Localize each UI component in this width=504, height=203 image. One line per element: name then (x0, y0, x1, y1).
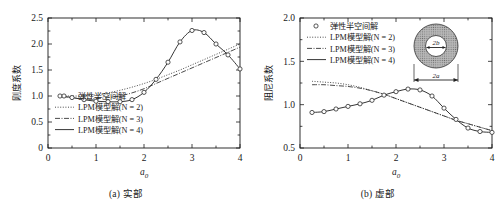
plot-frame (48, 18, 240, 148)
y-tick-label: 2.5 (31, 13, 43, 23)
x-tick-label: 1 (346, 153, 351, 163)
data-point-marker (454, 117, 458, 121)
x-tick-label: 0 (46, 153, 51, 163)
chart-imaginary-part: 0.51.01.52.001234阻尼系数a0弹性半空间解LPM模型解(N = … (252, 0, 504, 180)
x-tick-label: 2 (394, 153, 399, 163)
data-point-marker (394, 90, 398, 94)
data-point-marker (322, 110, 326, 114)
legend: 弹性半空间解LPM模型解(N = 2)LPM模型解(N = 3)LPM模型解(N… (307, 21, 395, 65)
series-line-dotted (60, 44, 240, 96)
x-tick-label: 0 (298, 153, 303, 163)
data-point-marker (346, 104, 350, 108)
panel-imaginary-part: 0.51.01.52.001234阻尼系数a0弹性半空间解LPM模型解(N = … (252, 0, 504, 203)
series-markers (310, 87, 494, 135)
caption-panel-a: (a) 实部 (0, 186, 252, 200)
arrow-head-left-inner (427, 46, 430, 49)
x-tick-label: 2 (142, 153, 147, 163)
data-point-marker (466, 126, 470, 130)
data-point-marker (382, 93, 386, 97)
data-point-marker (166, 60, 170, 64)
y-tick-label: 2.0 (283, 13, 295, 23)
series-line-solid (312, 89, 492, 132)
data-point-marker (358, 102, 362, 106)
panel-real-part: 00.51.01.52.02.501234刚度系数a0弹性半空间解LPM模型解(… (0, 0, 252, 203)
series-line-dashdot (60, 47, 240, 99)
y-tick-label: 1.5 (283, 57, 295, 67)
data-point-marker (214, 42, 218, 46)
legend-item: LPM模型解(N = 4) (55, 125, 143, 135)
series-line-solid (60, 30, 240, 102)
series-line-dotted (312, 81, 492, 130)
y-tick-label: 0.5 (31, 117, 43, 127)
legend-item: 弹性半空间解 (314, 21, 378, 31)
legend-item: LPM模型解(N = 3) (307, 44, 395, 54)
data-point-marker (70, 95, 74, 99)
y-axis-title: 阻尼系数 (263, 65, 274, 101)
legend-marker-circle (314, 24, 318, 28)
data-point-marker (490, 130, 494, 134)
y-tick-label: 0 (38, 143, 43, 153)
data-point-marker (310, 110, 314, 114)
y-tick-label: 1.5 (31, 65, 43, 75)
plot-area: 00.51.01.52.02.501234刚度系数a0弹性半空间解LPM模型解(… (11, 13, 243, 179)
legend-item: LPM模型解(N = 3) (55, 114, 143, 124)
data-point-marker (178, 40, 182, 44)
x-axis-title: a0 (140, 167, 149, 180)
series-line-dashdot (312, 85, 492, 131)
data-point-marker (238, 67, 242, 71)
y-axis-title: 刚度系数 (11, 65, 22, 101)
legend-item: LPM模型解(N = 2) (307, 32, 395, 42)
legend-label: 弹性半空间解 (330, 21, 378, 31)
x-tick-label: 1 (94, 153, 99, 163)
data-point-marker (430, 94, 434, 98)
legend-label: LPM模型解(N = 3) (78, 114, 143, 124)
data-point-marker (478, 129, 482, 133)
legend-label: LPM模型解(N = 2) (330, 32, 395, 42)
plot-frame (300, 18, 492, 148)
data-point-marker (370, 98, 374, 102)
legend-item: LPM模型解(N = 2) (55, 102, 143, 112)
legend-label: LPM模型解(N = 3) (330, 44, 395, 54)
y-tick-label: 1.0 (31, 91, 43, 101)
plot-area: 0.51.01.52.001234阻尼系数a0弹性半空间解LPM模型解(N = … (263, 13, 495, 179)
x-tick-label: 3 (190, 153, 195, 163)
axis-ticks (48, 18, 240, 148)
data-point-marker (190, 28, 194, 32)
y-tick-label: 0.5 (283, 143, 295, 153)
inner-diameter-label: 2b (433, 39, 441, 47)
outer-diameter-label: 2a (433, 72, 441, 80)
data-point-marker (58, 94, 62, 98)
data-point-marker (406, 87, 410, 91)
arrow-head-right-inner (443, 46, 446, 49)
chart-real-part: 00.51.01.52.02.501234刚度系数a0弹性半空间解LPM模型解(… (0, 0, 252, 180)
legend-label: 弹性半空间解 (78, 91, 126, 101)
caption-panel-b: (b) 虚部 (252, 186, 504, 200)
y-tick-label: 1.0 (283, 100, 295, 110)
data-point-marker (418, 88, 422, 92)
data-point-marker (130, 98, 134, 102)
x-axis-title: a0 (392, 167, 401, 180)
legend-label: LPM模型解(N = 4) (78, 125, 143, 135)
legend-label: LPM模型解(N = 2) (78, 102, 143, 112)
arrow-head-right-outer (454, 78, 459, 82)
data-point-marker (154, 77, 158, 81)
data-point-marker (142, 90, 146, 94)
arrow-head-left-outer (414, 78, 419, 82)
legend-item: LPM模型解(N = 4) (307, 55, 395, 65)
legend: 弹性半空间解LPM模型解(N = 2)LPM模型解(N = 3)LPM模型解(N… (55, 91, 143, 135)
x-tick-label: 4 (490, 153, 495, 163)
data-point-marker (334, 107, 338, 111)
axis-ticks (300, 18, 492, 148)
data-point-marker (226, 53, 230, 57)
figure-container: 00.51.01.52.02.501234刚度系数a0弹性半空间解LPM模型解(… (0, 0, 504, 203)
x-tick-label: 3 (442, 153, 447, 163)
annulus-diagram: 2b2a (414, 24, 458, 82)
data-point-marker (202, 30, 206, 34)
data-point-marker (442, 106, 446, 110)
legend-marker-circle (62, 94, 66, 98)
x-tick-label: 4 (238, 153, 243, 163)
y-tick-label: 2.0 (31, 39, 43, 49)
legend-label: LPM模型解(N = 4) (330, 55, 395, 65)
